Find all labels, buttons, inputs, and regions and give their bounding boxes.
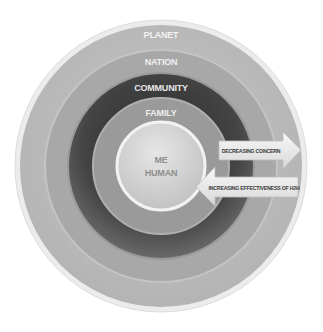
arrow-label-decreasing-concern: DECREASING CONCERN [222,148,281,154]
center-me-human [117,122,205,210]
label-nation: NATION [145,57,178,67]
label-family: FAMILY [146,108,177,118]
arrow-label-increasing-effectiveness: INCREASING EFFECTIVENESS OF H2H [209,185,300,191]
concentric-circles-diagram: PLANET NATION COMMUNITY FAMILY ME HUMAN … [0,0,323,332]
label-me: ME [154,155,167,165]
label-community: COMMUNITY [134,83,188,93]
label-human: HUMAN [145,168,178,178]
label-planet: PLANET [144,30,180,40]
